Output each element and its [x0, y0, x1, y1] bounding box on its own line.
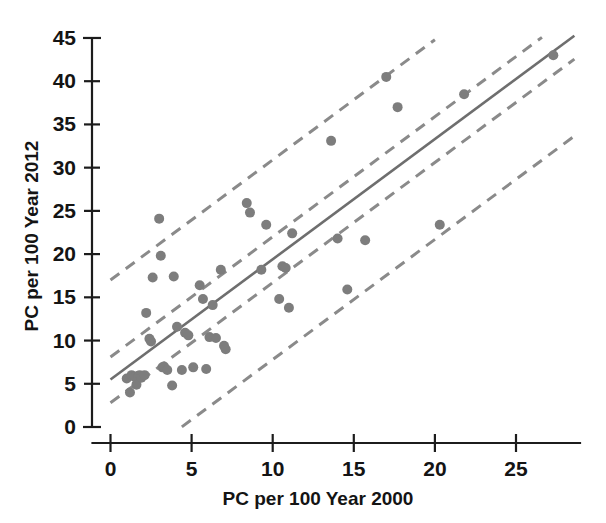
- data-point: [183, 330, 193, 340]
- x-tick-label: 15: [342, 457, 366, 480]
- data-point: [169, 272, 179, 282]
- data-point: [148, 272, 158, 282]
- data-point: [284, 303, 294, 313]
- data-point: [221, 344, 231, 354]
- data-point: [216, 265, 226, 275]
- y-tick-label: 15: [53, 285, 77, 308]
- y-tick-label: 30: [53, 156, 76, 179]
- y-tick-label: 25: [53, 199, 77, 222]
- data-point: [242, 198, 252, 208]
- data-point: [195, 280, 205, 290]
- y-axis: 051015202530354045: [53, 26, 101, 438]
- x-axis: 0510152025: [93, 434, 581, 480]
- data-point: [245, 208, 255, 218]
- x-tick-label: 0: [105, 457, 117, 480]
- data-point: [188, 362, 198, 372]
- x-tick-label: 20: [423, 457, 446, 480]
- data-point: [360, 235, 370, 245]
- data-point: [274, 294, 284, 304]
- band-line-lower-inner: [111, 59, 575, 403]
- band-line-upper-inner: [111, 37, 542, 357]
- data-point: [281, 263, 291, 273]
- data-point: [326, 136, 336, 146]
- data-point: [146, 336, 156, 346]
- x-tick-label: 25: [504, 457, 528, 480]
- y-tick-label: 40: [53, 69, 76, 92]
- x-tick-label: 10: [261, 457, 284, 480]
- scatter-plot-figure: 051015202530354045 0510152025 PC per 100…: [0, 0, 606, 523]
- x-tick-label: 5: [186, 457, 198, 480]
- data-point: [172, 322, 182, 332]
- y-tick-label: 10: [53, 329, 76, 352]
- data-point: [201, 364, 211, 374]
- data-point: [177, 365, 187, 375]
- data-point: [208, 300, 218, 310]
- y-axis-title: PC per 100 Year 2012: [21, 141, 42, 332]
- data-point: [141, 308, 151, 318]
- y-tick-label: 20: [53, 242, 76, 265]
- data-point: [198, 294, 208, 304]
- x-axis-title: PC per 100 Year 2000: [223, 488, 414, 509]
- data-point: [381, 72, 391, 82]
- data-point: [459, 89, 469, 99]
- y-tick-label: 35: [53, 112, 77, 135]
- data-point: [287, 228, 297, 238]
- data-point: [211, 333, 221, 343]
- y-tick-label: 45: [53, 26, 77, 49]
- data-point: [261, 220, 271, 230]
- data-point: [167, 381, 177, 391]
- data-point: [125, 387, 135, 397]
- data-point: [256, 265, 266, 275]
- data-point: [140, 370, 150, 380]
- data-point: [162, 365, 172, 375]
- plot-canvas: 051015202530354045 0510152025 PC per 100…: [0, 0, 606, 523]
- data-point: [156, 251, 166, 261]
- data-point: [342, 285, 352, 295]
- data-point: [154, 214, 164, 224]
- y-tick-label: 0: [64, 415, 76, 438]
- y-tick-label: 5: [64, 372, 76, 395]
- data-point: [393, 102, 403, 112]
- data-point: [333, 234, 343, 244]
- data-point: [435, 220, 445, 230]
- data-point: [548, 50, 558, 60]
